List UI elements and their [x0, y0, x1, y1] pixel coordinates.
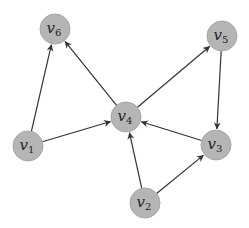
edge-v4-to-v6	[65, 41, 117, 105]
node-v1: v1	[13, 131, 43, 161]
edge-v4-to-v5	[137, 46, 209, 107]
node-v2: v2	[130, 188, 160, 218]
node-v4: v4	[111, 102, 141, 132]
node-v5: v5	[207, 21, 237, 51]
edge-v3-to-v4	[141, 122, 201, 141]
edge-v2-to-v4	[129, 133, 141, 189]
node-v3: v3	[201, 130, 231, 160]
nodes-layer: v1v2v3v4v5v6	[13, 14, 237, 218]
edge-v2-to-v3	[157, 155, 204, 193]
node-v6: v6	[40, 14, 70, 44]
edge-v1-to-v4	[42, 122, 110, 142]
edge-v1-to-v6	[31, 45, 51, 132]
graph-canvas: v1v2v3v4v5v6	[0, 0, 249, 228]
edge-v5-to-v3	[217, 51, 221, 129]
